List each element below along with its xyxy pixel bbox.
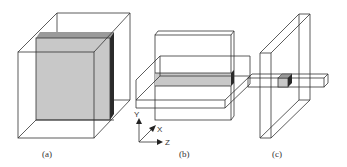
intersection-strip-b-side (231, 70, 234, 86)
intersection-cube-c (278, 78, 288, 87)
axis-y-label: Y (134, 110, 140, 119)
axis-z-label: Z (165, 138, 170, 147)
axis-x-label: X (157, 125, 163, 134)
panel-c-label: (c) (272, 149, 282, 159)
panel-b: (b) (136, 31, 250, 159)
panel-a: (a) (18, 13, 130, 159)
panel-a-label: (a) (42, 149, 52, 159)
figure-canvas: (a) (b) Y X Z (0, 0, 347, 167)
slab-a-front (36, 38, 110, 120)
slab-a-top (36, 32, 114, 38)
panel-b-label: (b) (179, 149, 190, 159)
intersection-strip-b (155, 73, 231, 86)
panel-c: (c) (248, 14, 328, 159)
slab-a-side (110, 32, 114, 120)
coordinate-axes: Y X Z (134, 110, 170, 147)
